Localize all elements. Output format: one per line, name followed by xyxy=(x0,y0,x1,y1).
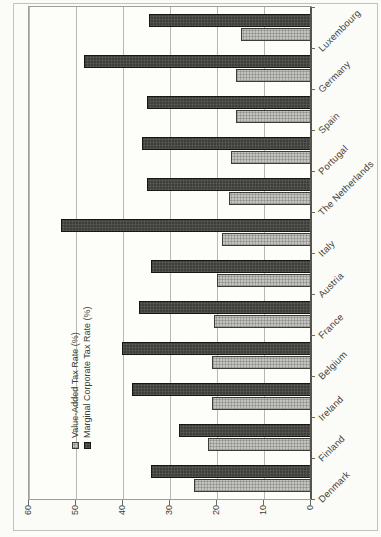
legend-marker-vat-icon xyxy=(72,442,79,449)
category-tick-12 xyxy=(311,7,315,8)
legend-item-corporate: Marginal Corporate Tax Rate (%) xyxy=(81,307,93,449)
plot-area: Value-Added Tax Rate (%)Marginal Corpora… xyxy=(28,6,312,500)
bar-luxembourg-corporate xyxy=(149,15,311,28)
bar-germany-vat xyxy=(236,69,311,82)
bar-belgium-vat xyxy=(212,356,311,369)
category-tick-1 xyxy=(311,458,315,459)
bar-denmark-vat xyxy=(194,479,312,492)
chart-canvas: Value-Added Tax Rate (%)Marginal Corpora… xyxy=(0,0,381,537)
bar-belgium-corporate xyxy=(122,343,311,356)
value-tick-label-20: 20 xyxy=(211,505,221,531)
bar-denmark-corporate xyxy=(151,466,311,479)
bar-finland-vat xyxy=(208,438,311,451)
legend-label-corporate: Marginal Corporate Tax Rate (%) xyxy=(82,307,92,438)
category-tick-0 xyxy=(311,499,315,500)
value-tick-label-30: 30 xyxy=(164,505,174,531)
bar-portugal-corporate xyxy=(142,138,311,151)
value-tick-label-0: 0 xyxy=(305,505,315,531)
category-tick-2 xyxy=(311,417,315,418)
value-tick-label-60: 60 xyxy=(23,505,33,531)
gridline-30 xyxy=(170,7,171,499)
bar-ireland-corporate xyxy=(132,384,311,397)
category-tick-7 xyxy=(311,212,315,213)
legend: Value-Added Tax Rate (%)Marginal Corpora… xyxy=(69,307,93,449)
bar-italy-vat xyxy=(222,233,311,246)
category-tick-3 xyxy=(311,376,315,377)
bar-austria-corporate xyxy=(151,261,311,274)
value-tick-label-40: 40 xyxy=(117,505,127,531)
bar-austria-vat xyxy=(217,274,311,287)
gridline-40 xyxy=(123,7,124,499)
gridline-60 xyxy=(29,7,30,499)
legend-marker-corporate-icon xyxy=(84,442,91,449)
bar-spain-corporate xyxy=(147,97,312,110)
bar-spain-vat xyxy=(236,110,311,123)
bar-finland-corporate xyxy=(179,425,311,438)
value-tick-label-10: 10 xyxy=(258,505,268,531)
category-tick-9 xyxy=(311,130,315,131)
value-tick-label-50: 50 xyxy=(70,505,80,531)
legend-item-vat: Value-Added Tax Rate (%) xyxy=(69,307,81,449)
category-tick-6 xyxy=(311,253,315,254)
legend-label-vat: Value-Added Tax Rate (%) xyxy=(70,332,80,438)
bar-the-netherlands-vat xyxy=(229,192,311,205)
category-tick-5 xyxy=(311,294,315,295)
bar-italy-corporate xyxy=(61,220,311,233)
bar-france-corporate xyxy=(139,302,311,315)
bar-the-netherlands-corporate xyxy=(147,179,312,192)
category-tick-11 xyxy=(311,48,315,49)
category-tick-10 xyxy=(311,89,315,90)
rotated-chart-stage: Value-Added Tax Rate (%)Marginal Corpora… xyxy=(0,0,381,537)
bar-germany-corporate xyxy=(84,56,311,69)
category-tick-4 xyxy=(311,335,315,336)
bar-luxembourg-vat xyxy=(241,28,312,41)
bar-ireland-vat xyxy=(212,397,311,410)
category-tick-8 xyxy=(311,171,315,172)
bar-portugal-vat xyxy=(231,151,311,164)
bar-france-vat xyxy=(214,315,311,328)
